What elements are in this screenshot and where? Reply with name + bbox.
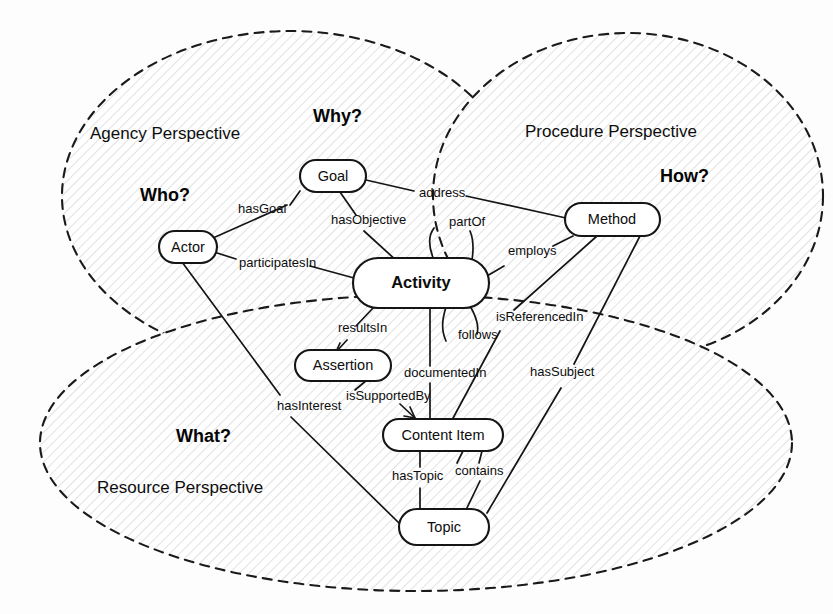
relation-label-contains: contains xyxy=(455,463,504,478)
relation-label-resultsIn: resultsIn xyxy=(338,320,387,335)
relation-label-documentedIn: documentedIn xyxy=(404,365,486,380)
relation-label-participatesIn: participatesIn xyxy=(239,255,316,270)
entity-node-assertion[interactable]: Assertion xyxy=(295,350,391,381)
entity-node-goal[interactable]: Goal xyxy=(300,160,366,192)
perspectives-diagram: Goal Actor Method Activity Assertion Con xyxy=(0,0,833,614)
entity-node-method[interactable]: Method xyxy=(565,203,660,236)
entity-node-activity[interactable]: Activity xyxy=(353,258,489,308)
entity-label-actor: Actor xyxy=(171,239,205,255)
entity-label-activity: Activity xyxy=(391,273,451,291)
entity-label-assertion: Assertion xyxy=(313,357,373,373)
relation-label-hasSubject: hasSubject xyxy=(530,364,595,379)
perspective-regions xyxy=(40,31,823,591)
perspective-title-procedure: Procedure Perspective xyxy=(525,122,697,141)
relation-label-hasGoal: hasGoal xyxy=(238,201,287,216)
question-word-who: Who? xyxy=(140,185,190,205)
diagram-canvas: Goal Actor Method Activity Assertion Con xyxy=(0,0,833,614)
question-word-why: Why? xyxy=(313,106,362,126)
relation-label-hasTopic: hasTopic xyxy=(392,468,444,483)
question-word-what: What? xyxy=(176,426,231,446)
question-word-how: How? xyxy=(660,166,709,186)
entity-label-goal: Goal xyxy=(318,168,349,184)
relation-label-partOf: partOf xyxy=(449,214,486,229)
relation-label-address: address xyxy=(419,185,466,200)
perspective-title-resource: Resource Perspective xyxy=(97,478,263,497)
relation-label-employs: employs xyxy=(508,243,557,258)
entity-node-actor[interactable]: Actor xyxy=(159,231,217,263)
relation-label-isReferencedIn: isReferencedIn xyxy=(496,309,583,324)
entity-label-method: Method xyxy=(588,211,636,227)
entity-node-content-item[interactable]: Content Item xyxy=(383,419,503,451)
relation-label-follows: follows xyxy=(458,327,498,342)
entity-node-topic[interactable]: Topic xyxy=(399,509,489,545)
perspective-title-agency: Agency Perspective xyxy=(90,124,240,143)
entity-label-topic: Topic xyxy=(427,519,461,535)
entity-label-content-item: Content Item xyxy=(401,427,484,443)
relation-label-isSupportedBy: isSupportedBy xyxy=(346,388,431,403)
relation-label-hasInterest: hasInterest xyxy=(277,398,342,413)
relation-label-hasObjective: hasObjective xyxy=(331,212,406,227)
